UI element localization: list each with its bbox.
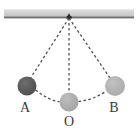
pendulum-bob-b [105,76,125,96]
pendulum-bob-a [18,77,37,96]
pendulum-diagram: A O B [0,0,137,130]
arc-o-to-b [79,91,107,101]
bob-label-b: B [109,100,118,115]
arc-a-to-o [36,90,60,102]
string-to-b [69,18,110,78]
string-to-a [30,18,69,79]
pendulum-bob-o [60,93,79,112]
bob-label-a: A [20,100,31,115]
pendulum-strings [30,18,110,93]
bob-label-o: O [64,114,74,129]
